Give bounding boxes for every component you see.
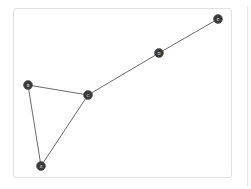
graph-edges: [28, 19, 218, 166]
edge-A-C: [41, 95, 88, 166]
node-E[interactable]: E: [214, 15, 223, 24]
network-graph[interactable]: ABCDE: [0, 0, 251, 189]
node-D[interactable]: D: [155, 49, 164, 58]
node-C[interactable]: C: [84, 91, 93, 100]
node-label: B: [27, 83, 30, 88]
edge-B-C: [28, 85, 88, 95]
edge-C-D: [88, 53, 159, 95]
node-B[interactable]: B: [24, 81, 33, 90]
edge-D-E: [159, 19, 218, 53]
node-label: D: [157, 51, 160, 56]
edge-B-A: [28, 85, 41, 166]
node-A[interactable]: A: [37, 162, 46, 171]
node-label: C: [87, 93, 90, 98]
node-label: A: [40, 164, 43, 169]
